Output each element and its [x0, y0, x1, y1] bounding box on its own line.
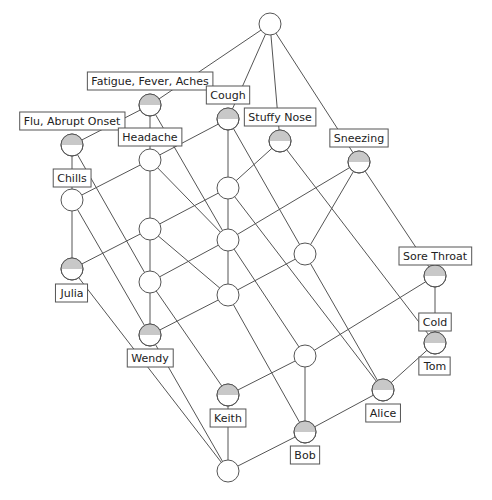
node-label: Cough: [206, 86, 249, 104]
edge-e-keith: [150, 282, 228, 395]
edge-a-b: [150, 188, 228, 229]
lattice-node-cough: [217, 108, 239, 130]
node-circle: [139, 218, 161, 240]
lattice-node-f: [217, 284, 239, 306]
node-half-fill: [217, 384, 239, 395]
lattice-node-d: [294, 243, 316, 265]
edge-sneezing-c: [228, 162, 359, 240]
node-label-text: Cold: [423, 316, 447, 329]
lattice-node-bottom: [217, 460, 239, 482]
node-label-text: Chills: [57, 172, 87, 185]
node-label-text: Fatigue, Fever, Aches: [91, 75, 209, 88]
node-label-text: Cough: [210, 89, 245, 102]
edge-c-e: [150, 240, 228, 282]
lattice-node-a: [217, 177, 239, 199]
lattice-node-top: [259, 13, 281, 35]
node-half-fill: [61, 134, 83, 145]
edge-chills-wendy: [72, 200, 150, 335]
edge-cough-d: [228, 119, 305, 254]
node-half-fill: [139, 94, 161, 105]
node-half-fill: [217, 108, 239, 119]
edge-g-keith: [228, 356, 305, 395]
node-circle: [139, 149, 161, 171]
lattice-node-c: [217, 229, 239, 251]
lattice-node-flu: [61, 134, 83, 156]
node-label: Keith: [210, 409, 246, 427]
lattice-node-headache: [139, 149, 161, 171]
node-circle: [294, 345, 316, 367]
node-label: Alice: [366, 404, 401, 422]
lattice-node-sneezing: [348, 151, 370, 173]
node-half-fill: [294, 421, 316, 432]
edge-d-alice: [305, 254, 383, 390]
lattice-node-alice: [372, 379, 394, 401]
node-circle: [217, 229, 239, 251]
node-label-text: Flu, Abrupt Onset: [24, 115, 121, 128]
node-half-fill: [348, 151, 370, 162]
node-circle: [259, 13, 281, 35]
node-label-text: Alice: [370, 407, 397, 420]
node-label: Headache: [118, 128, 182, 146]
node-label-text: Wendy: [131, 352, 169, 365]
node-circle: [139, 271, 161, 293]
node-circle: [217, 460, 239, 482]
node-label-text: Keith: [214, 412, 242, 425]
node-label: Sneezing: [330, 129, 388, 147]
lattice-node-ffa: [139, 94, 161, 116]
node-label: Julia: [55, 284, 87, 302]
node-label-text: Stuffy Nose: [248, 111, 312, 124]
edge-b-julia: [72, 229, 150, 269]
node-label: Stuffy Nose: [244, 108, 316, 126]
lattice-node-julia: [61, 258, 83, 280]
node-half-fill: [139, 324, 161, 335]
node-label: Wendy: [127, 349, 173, 367]
concept-lattice-diagram: Fatigue, Fever, AchesCoughStuffy NoseSne…: [0, 0, 492, 500]
lattice-node-keith: [217, 384, 239, 406]
node-label-text: Julia: [59, 287, 83, 300]
node-label-text: Tom: [423, 360, 446, 373]
node-label-text: Headache: [122, 131, 178, 144]
node-label: Tom: [419, 357, 450, 375]
node-half-fill: [61, 258, 83, 269]
edge-c-g: [228, 240, 305, 356]
node-label: Cold: [419, 313, 451, 331]
node-label: Fatigue, Fever, Aches: [87, 72, 213, 90]
edge-d-f: [228, 254, 305, 295]
lattice-node-chills: [61, 189, 83, 211]
node-label-text: Sore Throat: [403, 250, 468, 263]
edge-sneezing-d: [305, 162, 359, 254]
lattice-node-sore: [424, 265, 446, 287]
node-half-fill: [424, 265, 446, 276]
lattice-node-stuffy: [269, 130, 291, 152]
lattice-node-bob: [294, 421, 316, 443]
node-circle: [61, 189, 83, 211]
lattice-node-tom: [424, 332, 446, 354]
lattice-labels: Fatigue, Fever, AchesCoughStuffy NoseSne…: [20, 72, 472, 464]
node-circle: [217, 284, 239, 306]
lattice-node-e: [139, 271, 161, 293]
node-label: Chills: [53, 169, 91, 187]
lattice-node-g: [294, 345, 316, 367]
node-label: Bob: [290, 446, 319, 464]
edge-b-f: [150, 229, 228, 295]
node-label: Flu, Abrupt Onset: [20, 112, 125, 130]
lattice-node-b: [139, 218, 161, 240]
node-label-text: Sneezing: [334, 132, 384, 145]
node-label: Sore Throat: [399, 247, 472, 265]
node-label-text: Bob: [294, 449, 315, 462]
node-half-fill: [269, 130, 291, 141]
node-circle: [294, 243, 316, 265]
lattice-node-wendy: [139, 324, 161, 346]
node-circle: [217, 177, 239, 199]
edge-f-wendy: [150, 295, 228, 335]
